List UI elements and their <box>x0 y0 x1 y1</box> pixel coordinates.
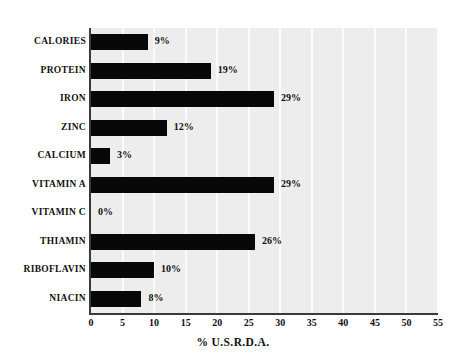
y-axis-line <box>89 28 91 315</box>
bar-row[interactable]: 8% <box>91 285 438 314</box>
category-label: RIBOFLAVIN <box>0 264 86 274</box>
x-tick-label: 0 <box>89 317 94 328</box>
x-tick-label: 15 <box>181 317 191 328</box>
x-tick-label: 30 <box>275 317 285 328</box>
category-label: NIACIN <box>0 293 86 303</box>
category-label: VITAMIN A <box>0 179 86 189</box>
bar[interactable] <box>91 148 110 164</box>
x-axis-line <box>89 313 438 315</box>
bar-value-label: 29% <box>281 92 301 103</box>
x-tick-label: 50 <box>401 317 411 328</box>
bar-value-label: 10% <box>161 263 181 274</box>
bar-row[interactable]: 10% <box>91 256 438 285</box>
bar-value-label: 8% <box>148 292 163 303</box>
bar[interactable] <box>91 234 255 250</box>
x-tick-label: 5 <box>120 317 125 328</box>
category-label: ZINC <box>0 122 86 132</box>
bar-value-label: 9% <box>155 35 170 46</box>
bar-value-label: 12% <box>174 121 194 132</box>
category-label: THIAMIN <box>0 236 86 246</box>
x-tick-label: 10 <box>149 317 159 328</box>
bar-row[interactable]: 0% <box>91 199 438 228</box>
bar[interactable] <box>91 120 167 136</box>
bar-value-label: 19% <box>218 64 238 75</box>
x-tick-label: 45 <box>370 317 380 328</box>
x-tick-label: 40 <box>338 317 348 328</box>
category-axis-labels: CALORIESPROTEINIRONZINCCALCIUMVITAMIN AV… <box>0 28 86 313</box>
bar-value-label: 29% <box>281 178 301 189</box>
x-tick-label: 55 <box>433 317 443 328</box>
plot-area: 9%19%29%12%3%29%0%26%10%8% <box>91 28 438 313</box>
category-label: PROTEIN <box>0 65 86 75</box>
bar-value-label: 3% <box>117 149 132 160</box>
bar[interactable] <box>91 91 274 107</box>
bar[interactable] <box>91 63 211 79</box>
category-label: CALCIUM <box>0 150 86 160</box>
bar-row[interactable]: 12% <box>91 114 438 143</box>
bar[interactable] <box>91 177 274 193</box>
x-tick-label: 20 <box>212 317 222 328</box>
x-axis-title: % U.S.R.D.A. <box>0 336 466 348</box>
bar-row[interactable]: 19% <box>91 57 438 86</box>
bar-value-label: 0% <box>98 206 113 217</box>
bar-row[interactable]: 26% <box>91 228 438 257</box>
x-tick-label: 35 <box>307 317 317 328</box>
category-label: IRON <box>0 93 86 103</box>
bar-row[interactable]: 9% <box>91 28 438 57</box>
category-label: CALORIES <box>0 36 86 46</box>
bar[interactable] <box>91 262 154 278</box>
bar[interactable] <box>91 34 148 50</box>
bar-row[interactable]: 29% <box>91 85 438 114</box>
bar-row[interactable]: 29% <box>91 171 438 200</box>
bar-row[interactable]: 3% <box>91 142 438 171</box>
x-axis-tick-labels: 0510152025303540455055 <box>91 317 438 333</box>
x-tick-label: 25 <box>244 317 254 328</box>
bar-value-label: 26% <box>262 235 282 246</box>
category-label: VITAMIN C <box>0 207 86 217</box>
bar[interactable] <box>91 291 141 307</box>
bar-chart: 9%19%29%12%3%29%0%26%10%8% CALORIESPROTE… <box>0 0 466 360</box>
